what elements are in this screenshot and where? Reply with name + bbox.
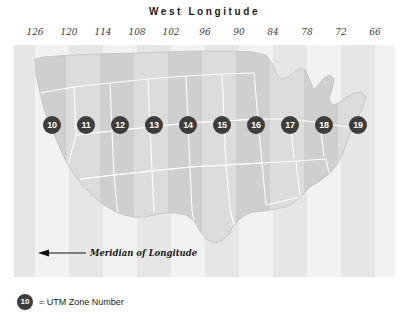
map-panel: 10111213141516171819 Meridian of Longitu… [14,45,395,277]
x-axis-tick-labels: 126120114108102969084787266 [0,27,409,41]
zone-badge-12: 12 [111,116,129,134]
zone-badge-16: 16 [247,116,265,134]
meridian-label: Meridian of Longitude [90,248,197,258]
zone-badge-17: 17 [281,116,299,134]
x-tick-label: 90 [233,27,244,37]
zone-badge-15: 15 [213,116,231,134]
x-tick-label: 114 [94,27,111,37]
x-tick-label: 72 [335,27,346,37]
zone-badge-19: 19 [349,116,367,134]
x-tick-label: 126 [26,27,43,37]
page-title: West Longitude [0,6,409,17]
meridian-annotation: Meridian of Longitude [38,245,197,261]
united-states-landmass [14,45,395,277]
x-tick-label: 78 [301,27,312,37]
legend-text: = UTM Zone Number [39,297,124,307]
left-arrow-icon [38,248,86,258]
x-tick-label: 102 [162,27,179,37]
zone-badge-13: 13 [145,116,163,134]
legend-badge-icon: 10 [17,294,33,310]
legend: 10 = UTM Zone Number [17,294,124,310]
x-tick-label: 84 [267,27,278,37]
zone-badge-10: 10 [43,116,61,134]
utm-zone-map-figure: West Longitude 1261201141081029690847872… [0,0,409,319]
zone-badge-11: 11 [77,116,95,134]
x-tick-label: 66 [369,27,380,37]
zone-badge-14: 14 [179,116,197,134]
x-tick-label: 96 [199,27,210,37]
zone-badge-18: 18 [315,116,333,134]
x-tick-label: 108 [128,27,145,37]
x-tick-label: 120 [60,27,77,37]
